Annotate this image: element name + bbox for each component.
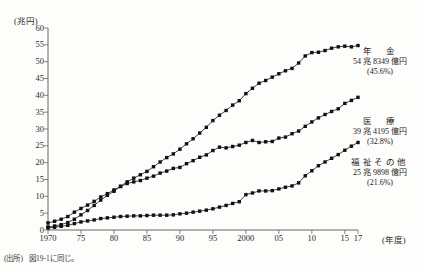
series-marker — [66, 224, 69, 227]
series-marker — [99, 198, 102, 201]
series-marker — [304, 125, 307, 128]
series-marker — [99, 217, 102, 220]
series-marker — [172, 167, 175, 170]
y-tick-label: 40 — [36, 91, 45, 100]
series-marker — [139, 179, 142, 182]
series-marker — [152, 174, 155, 177]
series-marker — [224, 109, 227, 112]
series-annotation-medical: 医 療 39 兆 4195 億円 (32.8%) — [340, 116, 420, 147]
series-marker — [304, 54, 307, 57]
series-marker — [152, 165, 155, 168]
series-marker — [205, 208, 208, 211]
series-marker — [205, 153, 208, 156]
series-amount-welfare: 25 兆 9898 億円 — [340, 168, 420, 178]
series-marker — [343, 149, 346, 152]
series-marker — [92, 204, 95, 207]
series-marker — [185, 162, 188, 165]
series-marker — [218, 205, 221, 208]
series-marker — [106, 192, 109, 195]
x-tick-label: 1970 — [40, 233, 57, 243]
series-marker — [165, 169, 168, 172]
series-marker — [284, 135, 287, 138]
series-marker — [191, 137, 194, 140]
series-marker — [139, 173, 142, 176]
x-axis-unit-label: (年度) — [382, 233, 406, 245]
series-marker — [277, 187, 280, 190]
series-marker — [310, 120, 313, 123]
series-marker — [158, 160, 161, 163]
x-tick-label: 95 — [209, 233, 218, 243]
x-tick-label: 90 — [176, 233, 185, 243]
series-marker — [185, 142, 188, 145]
series-amount-pension: 54 兆 8349 億円 — [340, 57, 420, 67]
series-marker — [139, 214, 142, 217]
series-marker — [125, 215, 128, 218]
series-marker — [323, 49, 326, 52]
source-text: 図19-1に同じ。 — [29, 254, 78, 263]
series-marker — [198, 156, 201, 159]
series-marker — [310, 169, 313, 172]
series-marker — [132, 176, 135, 179]
series-marker — [178, 148, 181, 151]
series-marker — [290, 67, 293, 70]
series-name-welfare: 福祉その他 — [340, 157, 420, 168]
series-marker — [125, 182, 128, 185]
series-marker — [46, 226, 49, 229]
y-tick-label: 25 — [36, 141, 45, 150]
series-marker — [297, 129, 300, 132]
y-tick-label: 30 — [36, 125, 45, 134]
series-marker — [330, 47, 333, 50]
series-marker — [178, 166, 181, 169]
series-marker — [284, 186, 287, 189]
series-marker — [251, 191, 254, 194]
series-marker — [79, 207, 82, 210]
series-marker — [211, 149, 214, 152]
series-marker — [112, 216, 115, 219]
series-amount-medical: 39 兆 4195 億円 — [340, 127, 420, 137]
series-marker — [86, 209, 89, 212]
series-marker — [86, 219, 89, 222]
series-marker — [323, 160, 326, 163]
series-marker — [264, 79, 267, 82]
x-tick-label: 05 — [275, 233, 284, 243]
series-marker — [178, 212, 181, 215]
series-percent-welfare: (21.6%) — [340, 178, 420, 188]
series-marker — [271, 140, 274, 143]
series-annotation-pension: 年 金 54 兆 8349 億円 (45.6%) — [340, 46, 420, 77]
series-marker — [205, 126, 208, 129]
series-marker — [284, 69, 287, 72]
series-marker — [211, 119, 214, 122]
series-marker — [337, 153, 340, 156]
x-tick-label: 75 — [77, 233, 86, 243]
series-marker — [112, 188, 115, 191]
series-marker — [132, 180, 135, 183]
series-marker — [211, 207, 214, 210]
series-marker — [317, 164, 320, 167]
source-note: (出所)図19-1に同じ。 — [4, 252, 78, 263]
series-marker — [73, 210, 76, 213]
series-percent-medical: (32.8%) — [340, 137, 420, 147]
series-marker — [53, 226, 56, 229]
series-marker — [264, 140, 267, 143]
series-marker — [290, 184, 293, 187]
y-tick-label: 20 — [36, 158, 45, 167]
series-marker — [79, 220, 82, 223]
series-marker — [244, 141, 247, 144]
plot-area — [48, 28, 358, 230]
series-marker — [310, 51, 313, 54]
series-marker — [231, 145, 234, 148]
series-marker — [145, 214, 148, 217]
y-tick-label: 15 — [36, 175, 45, 184]
series-marker — [231, 103, 234, 106]
series-marker — [158, 171, 161, 174]
series-marker — [317, 116, 320, 119]
series-marker — [244, 92, 247, 95]
series-marker — [158, 213, 161, 216]
series-marker — [350, 99, 353, 102]
series-name-medical: 医 療 — [340, 116, 420, 127]
series-marker — [297, 61, 300, 64]
series-marker — [92, 200, 95, 203]
series-marker — [79, 213, 82, 216]
series-marker — [191, 159, 194, 162]
x-tick-label: 2000 — [237, 233, 254, 243]
